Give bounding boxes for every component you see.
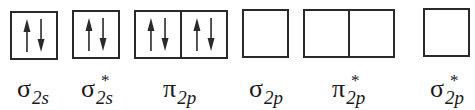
orbital-box-pi-star-2p <box>303 9 395 58</box>
orbital-cell <box>180 12 226 57</box>
orbital-cell <box>425 10 468 55</box>
spin-up-arrow-icon <box>85 18 92 51</box>
greek-letter: σ <box>249 74 263 103</box>
spin-down-arrow-icon <box>162 18 169 51</box>
label-pi-star-2p: π*2p <box>332 76 365 104</box>
greek-letter: σ <box>17 74 31 103</box>
spin-up-arrow-icon <box>147 18 154 51</box>
subscript: 2s <box>32 87 49 108</box>
subscript: 2p <box>445 87 464 108</box>
spin-down-arrow-icon <box>38 19 45 52</box>
orbital-box-sigma-2s <box>10 11 58 60</box>
subscript: 2p <box>177 87 196 108</box>
spin-up-arrow-icon <box>23 19 30 52</box>
subscript: 2s <box>96 87 113 108</box>
label-pi-2p: π2p <box>163 76 196 104</box>
label-sigma-star-2p: σ*2p <box>430 76 464 104</box>
greek-letter: π <box>332 74 345 103</box>
orbital-cell <box>136 12 180 57</box>
orbital-cell <box>12 13 56 58</box>
orbital-box-pi-2p <box>134 10 228 59</box>
subscript: 2p <box>346 87 365 108</box>
spin-up-arrow-icon <box>193 18 200 51</box>
label-sigma-star-2s: σ*2s <box>81 76 113 104</box>
orbital-cell <box>305 11 348 56</box>
greek-letter: σ <box>430 74 444 103</box>
spin-down-arrow-icon <box>100 18 107 51</box>
orbital-cell <box>74 12 118 57</box>
orbital-cell <box>348 11 393 56</box>
subscript: 2p <box>264 87 283 108</box>
spin-down-arrow-icon <box>208 18 215 51</box>
orbital-box-sigma-star-2s <box>72 10 120 59</box>
orbital-cell <box>244 11 287 56</box>
orbital-box-sigma-2p <box>242 9 289 58</box>
greek-letter: π <box>163 74 176 103</box>
label-sigma-2p: σ2p <box>249 76 283 104</box>
greek-letter: σ <box>81 74 95 103</box>
label-sigma-2s: σ2s <box>17 76 49 104</box>
orbital-box-sigma-star-2p <box>423 8 470 57</box>
